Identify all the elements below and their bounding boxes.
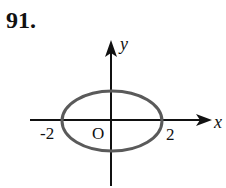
tick-label-pos-2: 2 <box>166 125 175 144</box>
x-axis-label: x <box>213 112 222 132</box>
y-axis-label: y <box>118 34 128 54</box>
tick-label-neg-2: -2 <box>40 124 54 143</box>
origin-label: O <box>92 124 104 143</box>
ellipse-graph: y x O -2 2 <box>0 0 226 188</box>
